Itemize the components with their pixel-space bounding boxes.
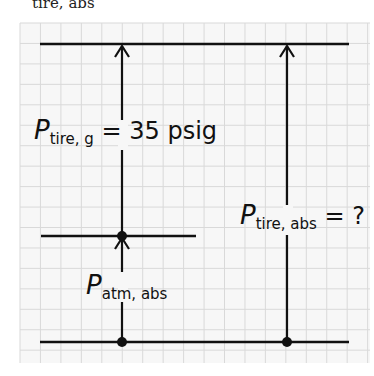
zero-dot-right-icon bbox=[282, 337, 292, 347]
atm-dot-icon bbox=[117, 231, 127, 241]
gauge-pressure-label: Ptire, g = 35 psig bbox=[34, 115, 217, 145]
zero-dot-left-icon bbox=[117, 337, 127, 347]
tire-abs-pressure-label: Ptire, abs = ? bbox=[240, 200, 365, 230]
grid-background bbox=[20, 23, 370, 363]
pressure-diagram bbox=[0, 0, 374, 376]
atm-abs-pressure-label: Patm, abs bbox=[86, 270, 167, 300]
